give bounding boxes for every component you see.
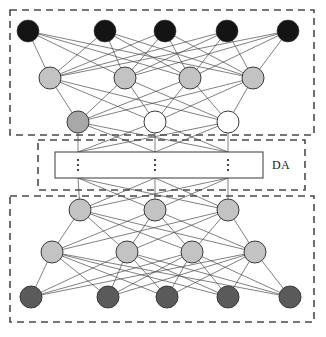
edge-line: [125, 31, 288, 78]
edge-line: [127, 252, 290, 297]
edge-line: [190, 31, 288, 78]
ellipsis-dot-1: [154, 164, 156, 166]
node-top-input-layer-2: [154, 20, 176, 42]
edge-line: [192, 252, 290, 297]
ellipsis-dot-0: [77, 159, 79, 161]
node-bottom-hidden-layer-0: [41, 241, 63, 263]
da-label: DA: [272, 158, 290, 173]
node-top-code-layer-1: [144, 111, 166, 133]
node-bottom-code-layer-1: [144, 199, 166, 221]
node-top-hidden-layer-0: [39, 67, 61, 89]
node-bottom-output-layer-4: [279, 286, 301, 308]
node-top-hidden-layer-2: [179, 67, 201, 89]
node-top-hidden-layer-3: [242, 67, 264, 89]
node-top-code-layer-2: [217, 111, 239, 133]
edge-line: [155, 210, 255, 252]
code-layer-box-group: [55, 152, 263, 178]
ellipsis-dot-2: [227, 159, 229, 161]
node-bottom-hidden-layer-2: [181, 241, 203, 263]
node-bottom-output-layer-0: [20, 286, 42, 308]
node-bottom-output-layer-3: [217, 286, 239, 308]
ellipsis-dot-0: [77, 169, 79, 171]
edge-line: [127, 210, 228, 252]
node-bottom-hidden-layer-1: [116, 241, 138, 263]
node-top-input-layer-1: [94, 20, 116, 42]
code-layer-box: [55, 152, 263, 178]
node-bottom-code-layer-2: [217, 199, 239, 221]
ellipsis-dot-1: [154, 169, 156, 171]
node-bottom-output-layer-2: [156, 286, 178, 308]
edge-line: [155, 78, 253, 122]
ellipsis-dot-0: [77, 164, 79, 166]
neural-network-diagram: DA: [0, 0, 326, 337]
node-bottom-hidden-layer-3: [244, 241, 266, 263]
node-top-hidden-layer-1: [114, 67, 136, 89]
node-top-input-layer-0: [17, 20, 39, 42]
node-bottom-code-layer-0: [69, 199, 91, 221]
node-top-input-layer-3: [216, 20, 238, 42]
ellipsis-dot-1: [154, 159, 156, 161]
node-bottom-output-layer-1: [97, 286, 119, 308]
node-top-input-layer-4: [277, 20, 299, 42]
node-top-code-layer-0: [67, 111, 89, 133]
ellipsis-dot-2: [227, 169, 229, 171]
ellipsis-dot-2: [227, 164, 229, 166]
